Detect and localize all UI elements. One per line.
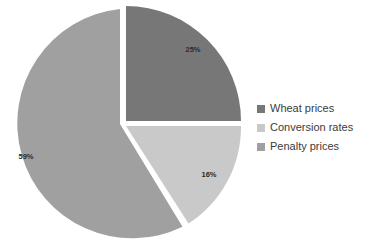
legend-swatch-icon-wheat-prices (257, 105, 265, 113)
legend-label-conversion-rates: Conversion rates (270, 122, 353, 133)
pie-chart-figure: 25% 16% 59% Wheat prices Conversion rate… (0, 0, 369, 246)
chart-legend: Wheat prices Conversion rates Penalty pr… (257, 99, 369, 156)
pie-slice-wheat-prices[interactable] (126, 6, 241, 121)
pie-slice-label-penalty-prices: 59% (18, 152, 33, 161)
pie-slice-label-conversion-rates: 16% (201, 170, 216, 179)
pie-slice-label-wheat-prices: 25% (185, 45, 200, 54)
legend-swatch-icon-conversion-rates (257, 124, 265, 132)
legend-item-wheat-prices[interactable]: Wheat prices (257, 99, 369, 118)
legend-label-wheat-prices: Wheat prices (270, 103, 334, 114)
legend-item-penalty-prices[interactable]: Penalty prices (257, 137, 369, 156)
legend-item-conversion-rates[interactable]: Conversion rates (257, 118, 369, 137)
legend-label-penalty-prices: Penalty prices (270, 141, 339, 152)
legend-swatch-icon-penalty-prices (257, 143, 265, 151)
